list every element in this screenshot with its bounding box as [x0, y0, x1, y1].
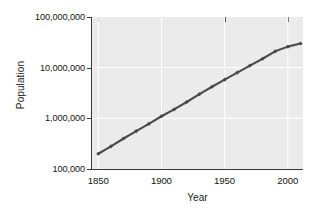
- plot-svg: [92, 17, 303, 169]
- y-tick-label-1000000: 1,000,000: [5, 113, 92, 123]
- y-tick-label-10000000: 10,000,000: [5, 63, 92, 73]
- data-line: [98, 43, 300, 153]
- plot-area: 100,000,000 10,000,000 1,000,000 100,000…: [91, 17, 303, 170]
- x-tick-label-1950: 1950: [195, 169, 255, 186]
- x-tick-label-2000: 2000: [258, 169, 310, 186]
- x-axis-label: Year: [90, 192, 305, 203]
- data-markers: [96, 41, 302, 155]
- x-tick-label-1850: 1850: [68, 169, 128, 186]
- x-tick-label-1900: 1900: [131, 169, 191, 186]
- y-tick-label-100000000: 100,000,000: [5, 12, 92, 22]
- gridlines: [92, 17, 303, 169]
- population-growth-chart: Population 100,000,000 10,000,000 1,000,…: [0, 0, 310, 217]
